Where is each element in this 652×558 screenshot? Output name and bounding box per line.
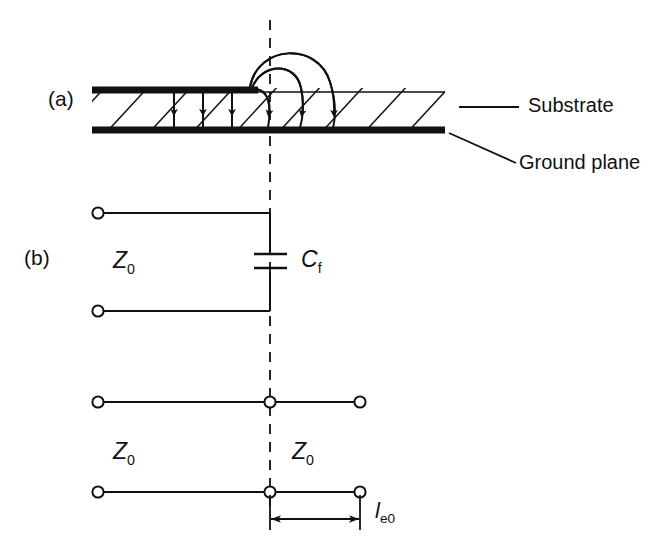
impedance-label-lower-right: Z0 (292, 440, 314, 467)
ground-plane-leader-line (449, 133, 516, 163)
capacitor-symbol-text: C (301, 246, 318, 272)
capacitor-subscript: f (318, 260, 322, 276)
length-label: le0 (375, 500, 395, 526)
impedance-subscript-lower-left: 0 (127, 452, 135, 468)
impedance-subscript-upper: 0 (127, 261, 135, 277)
terminal-bottom-left-upper (92, 305, 103, 316)
impedance-label-lower-left: Z0 (113, 440, 135, 467)
substrate-label: Substrate (528, 95, 614, 115)
terminal-bottom-left-lower (92, 486, 103, 497)
figure-microstrip-open-end: (a) (b) Substrate Ground plane Z0 Cf Z0 … (0, 0, 652, 558)
impedance-symbol-lower-right: Z (292, 438, 306, 464)
part-label-a: (a) (48, 88, 74, 109)
capacitor-label: Cf (301, 248, 322, 275)
circuit-equivalent-line (104, 402, 354, 492)
cross-section-drawing (0, 0, 652, 558)
impedance-symbol-lower-left: Z (113, 438, 127, 464)
ground-plane-label: Ground plane (519, 152, 640, 172)
electric-field-lines-straight (174, 92, 232, 129)
length-subscript: e0 (380, 511, 395, 526)
terminal-top-right-lower (354, 396, 365, 407)
impedance-label-upper: Z0 (113, 249, 135, 276)
length-dimension (270, 495, 360, 530)
part-label-b: (b) (24, 247, 50, 268)
terminal-top-left-upper (92, 207, 103, 218)
impedance-subscript-lower-right: 0 (306, 452, 314, 468)
terminal-top-mid-lower (264, 396, 275, 407)
terminal-top-left-lower (92, 396, 103, 407)
impedance-symbol-upper: Z (113, 247, 127, 273)
